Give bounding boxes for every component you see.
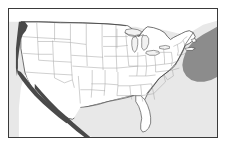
us-outline-map xyxy=(9,9,217,137)
map-figure: Outline map of the contiguous United Sta… xyxy=(0,0,227,147)
lake-ontario xyxy=(160,45,170,49)
map-frame xyxy=(8,8,218,138)
lake-erie xyxy=(146,50,160,55)
map-title: Outline map of the contiguous United Sta… xyxy=(0,21,1,22)
